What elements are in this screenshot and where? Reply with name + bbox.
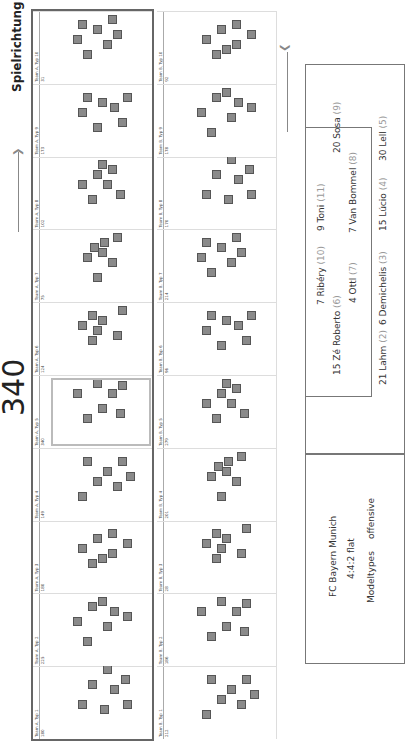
type-cell: Team A, Typ 775 xyxy=(33,229,153,302)
player-marker xyxy=(197,607,206,616)
player-marker xyxy=(207,268,216,277)
player-marker xyxy=(116,190,125,199)
divider xyxy=(39,522,40,594)
player-marker xyxy=(240,627,249,636)
type-grid: Team A, Typ 1180Team A, Typ 2225Team A, … xyxy=(33,11,278,739)
player-marker xyxy=(103,40,112,49)
player-marker xyxy=(98,98,107,107)
player-marker xyxy=(78,108,87,117)
player-marker xyxy=(207,472,216,481)
type-cell: Team B, Typ 7214 xyxy=(157,229,277,302)
player-marker xyxy=(78,492,87,501)
player-marker xyxy=(73,617,82,626)
divider xyxy=(163,12,164,84)
player-marker xyxy=(222,379,231,388)
player-marker xyxy=(108,549,117,558)
player-marker xyxy=(73,35,82,44)
type-count: 186 xyxy=(164,657,169,665)
player-marker xyxy=(222,88,231,97)
player-marker xyxy=(242,675,251,684)
player-marker xyxy=(83,414,92,423)
player-marker xyxy=(227,155,236,164)
type-count: 225 xyxy=(40,657,45,665)
player-marker xyxy=(242,524,251,533)
player-marker xyxy=(113,233,122,242)
player-marker xyxy=(121,675,130,684)
type-count: 214 xyxy=(164,293,169,301)
player-marker xyxy=(118,381,127,390)
formation: 4:4:2 flat xyxy=(346,538,356,579)
type-count: 92 xyxy=(164,77,169,82)
type-count: 102 xyxy=(40,220,45,228)
player: 6 Demichelis (3) xyxy=(378,251,388,325)
divider xyxy=(39,158,40,230)
player-marker xyxy=(113,331,122,340)
player-marker xyxy=(93,170,102,179)
player-marker xyxy=(108,165,117,174)
player-marker xyxy=(202,399,211,408)
player-marker xyxy=(247,30,256,39)
type-cell: Team B, Typ 5279 xyxy=(157,375,277,448)
type-cell: Team A, Typ 8102 xyxy=(33,157,153,230)
player-marker xyxy=(232,477,241,486)
player-marker xyxy=(232,607,241,616)
type-cell: Team A, Typ 3180 xyxy=(33,521,153,594)
player-marker xyxy=(78,180,87,189)
player-marker xyxy=(90,243,99,252)
direction-arrow-bottom xyxy=(287,52,288,132)
type-cell: Team B, Typ 696 xyxy=(157,302,277,375)
player-marker xyxy=(118,118,127,127)
player-marker xyxy=(108,529,117,538)
type-count: 149 xyxy=(40,511,45,519)
player-marker xyxy=(78,544,87,553)
player-marker xyxy=(103,180,112,189)
type-count: 201 xyxy=(164,511,169,519)
divider xyxy=(39,85,40,157)
player-marker xyxy=(242,336,251,345)
player-marker xyxy=(250,690,259,699)
player-marker xyxy=(123,539,132,548)
type-cell: Team A, Typ 5340 xyxy=(33,375,153,448)
player-marker xyxy=(222,534,231,543)
divider xyxy=(39,230,40,302)
type-count: 31 xyxy=(40,77,45,82)
divider xyxy=(163,594,164,666)
player-marker xyxy=(93,534,102,543)
type-cell: Team A, Typ 2225 xyxy=(33,593,153,666)
player-marker xyxy=(212,170,221,179)
player-marker xyxy=(103,665,112,674)
player-marker xyxy=(217,492,226,501)
player-marker xyxy=(73,389,82,398)
player-marker xyxy=(234,321,243,330)
type-count: 180 xyxy=(40,584,45,592)
player-marker xyxy=(88,602,97,611)
player-marker xyxy=(207,632,216,641)
player: 30 Lell (5) xyxy=(378,116,388,161)
player-marker xyxy=(217,341,226,350)
player-marker xyxy=(108,389,117,398)
player-marker xyxy=(78,700,87,709)
player-marker xyxy=(207,675,216,684)
player-marker xyxy=(202,35,211,44)
type-cell: Team B, Typ 328 xyxy=(157,521,277,594)
player-marker xyxy=(98,597,107,606)
divider xyxy=(39,12,40,84)
player-marker xyxy=(123,93,132,102)
type-cell: Team A, Typ 4149 xyxy=(33,448,153,521)
type-cell: Team B, Typ 1092 xyxy=(157,11,277,84)
player-marker xyxy=(217,389,226,398)
player-marker xyxy=(232,20,241,29)
type-cell: Team A, Typ 6124 xyxy=(33,302,153,375)
player-marker xyxy=(234,98,243,107)
type-count: 28 xyxy=(164,586,169,591)
formation-diagram: 340 Spielrichtung ❯ Team A, Typ 1180Team… xyxy=(0,0,410,752)
player-marker xyxy=(110,685,119,694)
player-marker xyxy=(212,93,221,102)
player: 15 Lúcio (4) xyxy=(378,178,388,231)
player-marker xyxy=(108,15,117,24)
player-marker xyxy=(110,103,119,112)
player-marker xyxy=(212,554,221,563)
player-marker xyxy=(98,160,107,169)
player: 4 Ottl (7) xyxy=(348,262,358,303)
player-marker xyxy=(197,108,206,117)
